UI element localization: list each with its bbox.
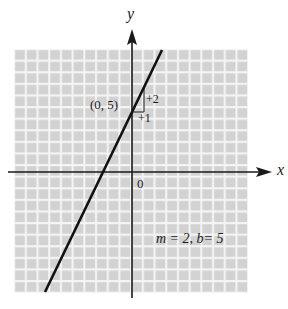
graph-svg	[0, 0, 288, 309]
params-label: m = 2, b= 5	[156, 232, 224, 246]
origin-label: 0	[137, 177, 144, 190]
x-axis-label: x	[277, 162, 284, 178]
run-label: +1	[138, 112, 151, 124]
rise-label: +2	[146, 93, 159, 105]
y-axis-label: y	[127, 6, 134, 22]
intercept-label: (0, 5)	[90, 98, 118, 111]
grid-background	[14, 49, 248, 293]
